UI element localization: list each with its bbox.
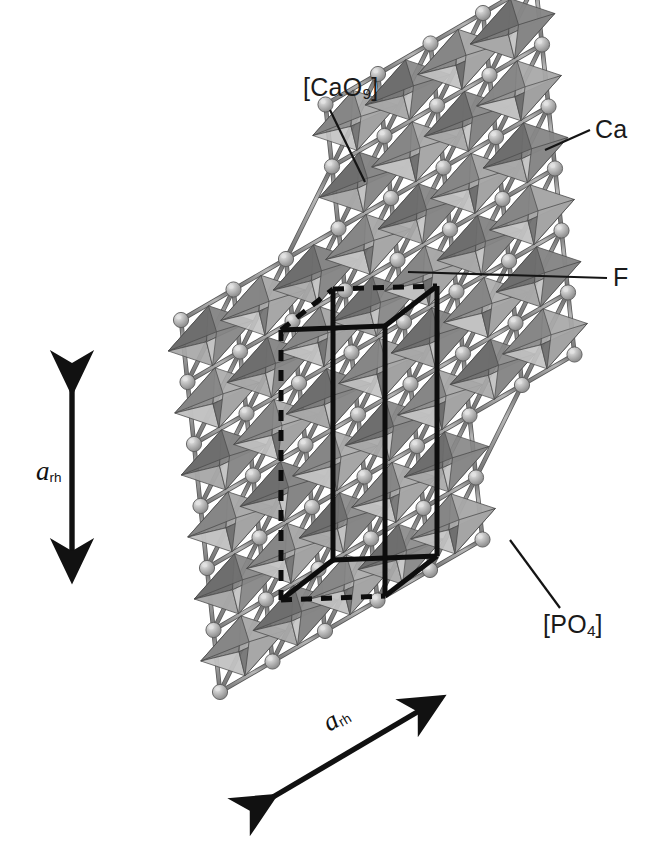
- axis-label-a-rh-vertical: arh: [36, 458, 62, 485]
- crystal-structure-figure: [CaO9] Ca F [PO4] arh arh: [0, 0, 659, 846]
- label-cao9-polyhedron: [CaO9]: [303, 75, 378, 102]
- label-po4-tetrahedron: [PO4]: [543, 612, 603, 639]
- label-ca-atom: Ca: [595, 117, 628, 142]
- label-f-atom: F: [613, 265, 629, 290]
- lattice-polyhedra: [168, 0, 587, 700]
